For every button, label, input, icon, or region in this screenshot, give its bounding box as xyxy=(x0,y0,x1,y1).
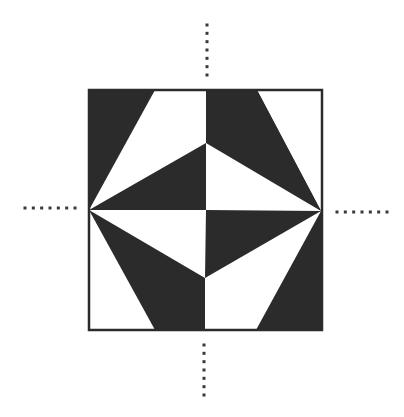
right-guide xyxy=(336,211,389,214)
guide-dot xyxy=(344,211,347,214)
guide-dot xyxy=(352,211,355,214)
guide-dot xyxy=(369,211,372,214)
guide-dot xyxy=(57,207,60,210)
guide-dot xyxy=(206,57,209,60)
guide-dot xyxy=(74,207,77,210)
guide-dot xyxy=(206,49,209,52)
tile-pattern-figure xyxy=(0,0,404,417)
guide-dot xyxy=(206,32,209,35)
guide-dot xyxy=(203,377,206,380)
guide-dot xyxy=(203,344,206,347)
guide-dot xyxy=(203,360,206,363)
guide-dot xyxy=(203,385,206,388)
pattern-square xyxy=(89,90,322,330)
guide-dot xyxy=(206,40,209,43)
guide-dot xyxy=(336,211,339,214)
guide-dot xyxy=(206,24,209,27)
guide-dot xyxy=(203,369,206,372)
left-guide xyxy=(24,207,77,210)
guide-dot xyxy=(24,207,27,210)
guide-dot xyxy=(40,207,43,210)
top-guide xyxy=(206,24,209,77)
guide-dot xyxy=(65,207,68,210)
guide-dot xyxy=(206,74,209,77)
guide-dot xyxy=(377,211,380,214)
bottom-guide xyxy=(203,344,206,397)
guide-dot xyxy=(49,207,52,210)
guide-dot xyxy=(32,207,35,210)
guide-dot xyxy=(361,211,364,214)
guide-dot xyxy=(203,394,206,397)
guide-dot xyxy=(203,352,206,355)
guide-dot xyxy=(206,65,209,68)
guide-dot xyxy=(386,211,389,214)
